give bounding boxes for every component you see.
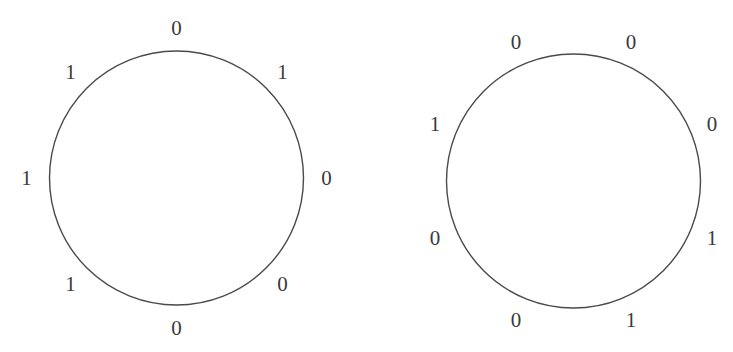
right-circle-group: 00110010 xyxy=(0,0,733,352)
bit-label: 0 xyxy=(626,32,637,53)
right-circle-outline xyxy=(447,54,701,308)
bit-label: 1 xyxy=(430,113,441,134)
bit-label: 1 xyxy=(707,228,718,249)
figure-canvas: 01000111 00110010 xyxy=(0,0,733,352)
bit-label: 0 xyxy=(430,228,441,249)
bit-label: 1 xyxy=(626,309,637,330)
bit-label: 0 xyxy=(707,113,718,134)
bit-label: 0 xyxy=(511,32,522,53)
bit-label: 0 xyxy=(511,309,522,330)
right-circle-outline-svg xyxy=(0,0,733,352)
